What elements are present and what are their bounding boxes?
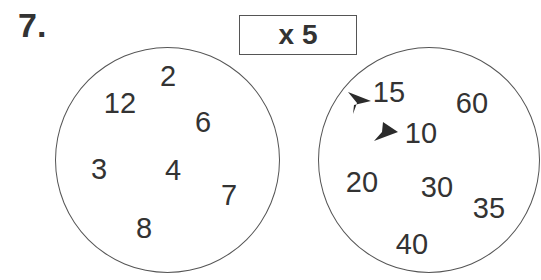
output-number: 15	[373, 78, 405, 107]
output-number: 10	[405, 119, 437, 148]
output-number: 60	[456, 89, 488, 118]
arrowhead-icon	[348, 92, 372, 114]
input-number: 7	[221, 181, 237, 210]
input-number: 4	[165, 156, 181, 185]
input-number: 3	[91, 155, 107, 184]
output-number: 40	[396, 230, 428, 259]
output-number: 30	[421, 173, 453, 202]
output-circle	[318, 47, 540, 273]
output-number: 35	[473, 194, 505, 223]
operation-label: x 5	[279, 21, 318, 49]
input-number: 8	[136, 214, 152, 243]
input-number: 12	[104, 89, 136, 118]
input-number: 6	[195, 108, 211, 137]
question-number: 7.	[18, 8, 46, 42]
output-number: 20	[346, 168, 378, 197]
arrowhead-icon	[374, 122, 398, 144]
operation-box: x 5	[239, 15, 357, 55]
input-number: 2	[160, 62, 176, 91]
